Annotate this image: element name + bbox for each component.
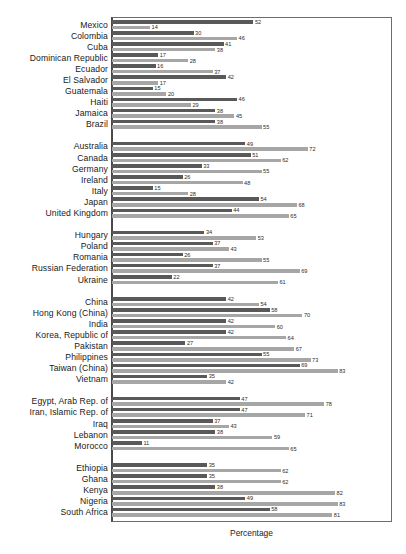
bar-slot: 81 <box>112 512 406 518</box>
chart-row: Ghana3562 <box>0 473 406 484</box>
bar-series-1 <box>112 275 172 279</box>
row-label: Cuba <box>87 42 108 51</box>
chart-row: India4260 <box>0 318 406 329</box>
row-bars: 4260 <box>112 318 406 329</box>
bar-series-1 <box>112 75 226 79</box>
bar-series-1 <box>112 375 207 379</box>
row-label: Italy <box>92 186 108 195</box>
bar-series-1 <box>112 109 215 113</box>
bar-series-2 <box>112 48 215 52</box>
bar-series-2 <box>112 336 286 340</box>
bar-series-2 <box>112 37 237 41</box>
row-label: Hong Kong (China) <box>33 308 108 317</box>
bar-series-1 <box>112 64 156 68</box>
bar-series-1 <box>112 87 153 91</box>
bar-series-2 <box>112 491 335 495</box>
chart-row: Australia4972 <box>0 141 406 152</box>
row-bars: 3855 <box>112 119 406 130</box>
group-separator <box>0 130 406 141</box>
bar-series-1 <box>112 231 204 235</box>
bar-series-2 <box>112 513 332 517</box>
bar-series-2 <box>112 147 308 151</box>
bar-series-2 <box>112 26 150 30</box>
chart-row: Taiwan (China)6983 <box>0 363 406 374</box>
bar-series-2 <box>112 402 324 406</box>
bar-series-1 <box>112 364 300 368</box>
bar-series-2 <box>112 347 294 351</box>
bar-series-1 <box>112 319 226 323</box>
row-label: Ecuador <box>75 64 108 73</box>
row-label: Romania <box>73 253 108 262</box>
bar-value-label: 81 <box>332 512 340 518</box>
chart-row: El Salvador4217 <box>0 74 406 85</box>
row-bars: 2767 <box>112 340 406 351</box>
bar-series-2 <box>112 81 158 85</box>
bar-slot: 55 <box>112 124 406 130</box>
row-label: Lebanon <box>74 430 108 439</box>
row-bars: 3453 <box>112 230 406 241</box>
bar-series-1 <box>112 197 259 201</box>
group-separator <box>0 385 406 396</box>
row-label: Korea, Republic of <box>35 330 108 339</box>
bar-series-1 <box>112 209 232 213</box>
row-bars: 3859 <box>112 429 406 440</box>
bar-series-1 <box>112 42 224 46</box>
bar-series-2 <box>112 358 311 362</box>
chart-row: Cuba4138 <box>0 41 406 52</box>
bar-series-1 <box>112 508 270 512</box>
bar-series-2 <box>112 281 278 285</box>
bar-series-1 <box>112 430 215 434</box>
row-label: Russian Federation <box>32 264 108 273</box>
bar-series-2 <box>112 469 281 473</box>
bar-series-2 <box>112 59 188 63</box>
chart-row: Egypt, Arab Rep. of4778 <box>0 396 406 407</box>
bar-series-2 <box>112 114 234 118</box>
bar-series-2 <box>112 303 259 307</box>
bar-slot: 65 <box>112 446 406 452</box>
bar-series-1 <box>112 485 215 489</box>
bar-series-1 <box>112 242 213 246</box>
chart-row: Lebanon3859 <box>0 429 406 440</box>
chart-row: Philippines5573 <box>0 352 406 363</box>
row-label: Ghana <box>82 474 108 483</box>
row-label: Ethiopia <box>76 463 108 472</box>
bar-value-label: 55 <box>262 124 270 130</box>
chart-row: Iran, Islamic Rep. of4771 <box>0 407 406 418</box>
row-label: Kenya <box>83 486 108 495</box>
row-bars: 2655 <box>112 252 406 263</box>
row-label: Canada <box>77 153 108 162</box>
chart-row: Hong Kong (China)5870 <box>0 307 406 318</box>
bar-series-1 <box>112 175 183 179</box>
bar-series-1 <box>112 20 253 24</box>
row-bars: 1520 <box>112 86 406 97</box>
bar-series-2 <box>112 159 281 163</box>
bar-value-label: 42 <box>226 379 234 385</box>
bar-series-1 <box>112 397 240 401</box>
bar-value-label: 65 <box>289 446 297 452</box>
chart-row: Morocco1165 <box>0 440 406 451</box>
bar-series-2 <box>112 269 300 273</box>
row-label: Dominican Republic <box>30 53 108 62</box>
bar-slot: 42 <box>112 379 406 385</box>
row-bars: 4771 <box>112 407 406 418</box>
chart-row: Iraq3743 <box>0 418 406 429</box>
row-bars: 4629 <box>112 97 406 108</box>
bar-series-1 <box>112 330 226 334</box>
row-bars: 5468 <box>112 196 406 207</box>
bar-series-1 <box>112 408 240 412</box>
row-label: China <box>85 297 108 306</box>
bar-series-2 <box>112 192 188 196</box>
bar-series-1 <box>112 497 245 501</box>
row-label: Guatemala <box>65 87 108 96</box>
bar-series-1 <box>112 463 207 467</box>
row-bars: 4217 <box>112 74 406 85</box>
bar-series-1 <box>112 474 207 478</box>
row-label: Hungary <box>75 231 108 240</box>
bar-series-1 <box>112 31 194 35</box>
row-bars: 4972 <box>112 141 406 152</box>
chart-row: Romania2655 <box>0 252 406 263</box>
row-label: Poland <box>81 242 108 251</box>
bar-series-2 <box>112 380 226 384</box>
row-label: Egypt, Arab Rep. of <box>32 397 108 406</box>
bar-series-1 <box>112 253 183 257</box>
